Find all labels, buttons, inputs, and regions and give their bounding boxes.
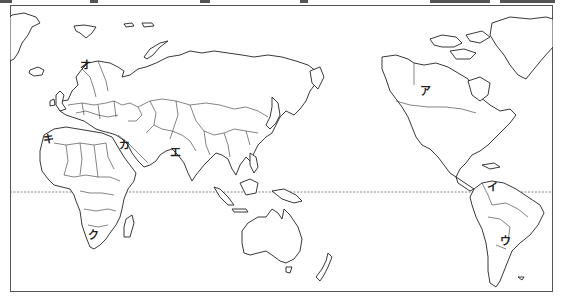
label-o-scandinavia: オ (80, 60, 91, 71)
java (232, 209, 248, 212)
label-ku-south-africa: ク (88, 230, 99, 241)
falklands (518, 277, 524, 280)
label-u-argentina: ウ (500, 236, 511, 247)
world-map (10, 5, 553, 292)
greenland (490, 17, 553, 79)
north-america (382, 55, 516, 177)
label-e-india: エ (170, 147, 181, 158)
svalbard (74, 25, 96, 38)
south-america (470, 181, 544, 287)
label-ki-morocco: キ (43, 134, 54, 145)
label-ka-arabia: カ (119, 140, 130, 151)
philippines (250, 153, 258, 173)
top-crop-strip (0, 0, 563, 4)
label-a-canada: ア (420, 86, 431, 97)
new-zealand (316, 253, 332, 281)
novaya-zemlya (144, 41, 168, 59)
iceland (29, 67, 44, 76)
cuba (482, 163, 500, 169)
tasmania (286, 267, 292, 273)
central-america (456, 177, 474, 191)
greenland-west-fragment (10, 13, 40, 61)
new-guinea (272, 189, 302, 203)
australia (242, 209, 302, 263)
franz-josef-land (124, 23, 154, 27)
borneo (240, 179, 258, 195)
label-i-colombia: イ (487, 182, 498, 193)
arctic-islands (430, 31, 490, 59)
madagascar (124, 215, 134, 237)
sumatra (214, 187, 234, 205)
ireland (50, 99, 55, 106)
